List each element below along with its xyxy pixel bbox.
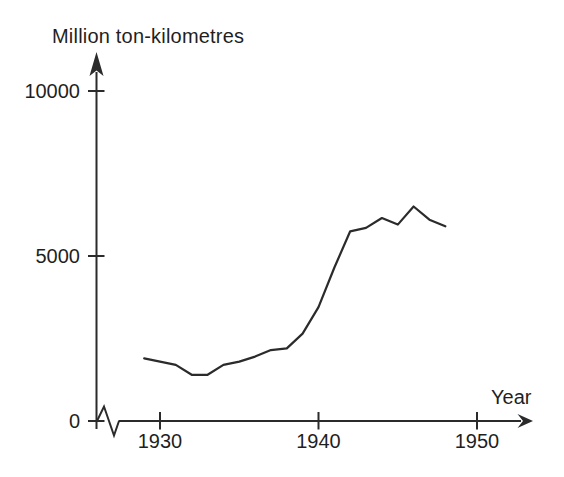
line-chart-svg: 0500010000 193019401950 (0, 0, 564, 477)
y-tick-label: 5000 (36, 245, 81, 267)
y-axis-ticks: 0500010000 (24, 80, 104, 432)
x-axis-ticks: 193019401950 (138, 412, 500, 452)
chart-figure: Million ton-kilometres Year 0500010000 1… (0, 0, 564, 477)
y-tick-label: 0 (69, 410, 80, 432)
x-tick-label: 1930 (138, 430, 183, 452)
x-tick-label: 1940 (296, 430, 341, 452)
x-tick-label: 1950 (455, 430, 500, 452)
data-line (144, 207, 445, 375)
y-tick-label: 10000 (24, 80, 80, 102)
